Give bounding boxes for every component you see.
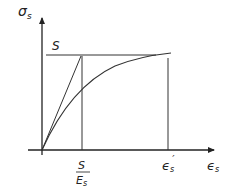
stress-strain-curve [42,53,171,150]
stress-strain-diagram: σs S S Es ϵs′ ϵs [0,0,230,192]
y-axis-label: σs [18,3,32,21]
ultimate-strain-label: ϵs′ [162,154,175,174]
fraction-numerator: S [78,159,85,172]
elastic-line [42,56,81,150]
x-axis-label: ϵs [207,158,219,174]
yield-stress-label: S [52,39,60,53]
fraction-denominator: Es [76,174,87,188]
